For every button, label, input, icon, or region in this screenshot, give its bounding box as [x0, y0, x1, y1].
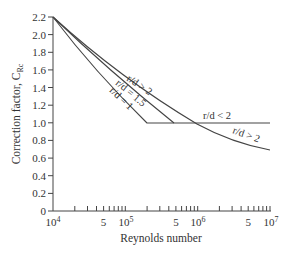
y-axis-title: Correction factor, CRc [10, 63, 25, 164]
x-tick-1e5: 105 [119, 215, 134, 228]
x-tick-5e6: 5 [245, 216, 251, 228]
x-ticks [75, 206, 270, 211]
y-tick-2.0: 2.0 [32, 29, 46, 41]
x-tick-1e7: 107 [264, 215, 279, 228]
y-tick-2.2: 2.2 [32, 11, 46, 23]
y-tick-1.2: 1.2 [32, 99, 46, 111]
y-tick-0.4: 0.4 [32, 170, 46, 182]
y-tick-1.0: 1.0 [32, 117, 46, 129]
y-tick-1.6: 1.6 [32, 64, 46, 76]
y-tick-0.6: 0.6 [32, 152, 46, 164]
label-rd-lt2: r/d < 2 [203, 110, 231, 121]
y-tick-labels: 0 0.2 0.4 0.6 0.8 1.0 1.2 1.4 1.6 1.8 2.… [32, 11, 46, 217]
y-tick-1.4: 1.4 [32, 82, 46, 94]
curve-rd-1 [53, 17, 270, 123]
y-ticks [48, 17, 53, 211]
x-tick-5e5: 5 [173, 216, 179, 228]
y-tick-1.8: 1.8 [32, 46, 46, 58]
y-tick-0.2: 0.2 [32, 187, 46, 199]
x-tick-5e4: 5 [101, 216, 107, 228]
x-tick-1e6: 106 [191, 215, 206, 228]
x-tick-1e4: 104 [46, 215, 61, 228]
x-tick-labels: 104 5 105 5 106 5 107 [46, 215, 279, 228]
x-axis-title: Reynolds number [120, 232, 202, 245]
y-tick-0.8: 0.8 [32, 134, 46, 146]
chart: 0 0.2 0.4 0.6 0.8 1.0 1.2 1.4 1.6 1.8 2.… [0, 0, 289, 259]
